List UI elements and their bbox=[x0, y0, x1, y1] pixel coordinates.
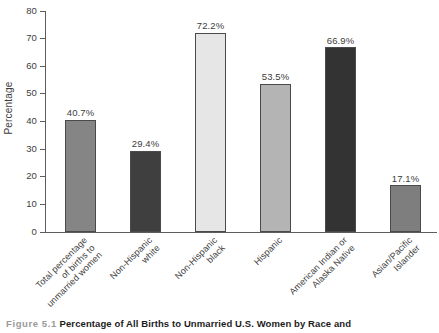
y-tick-label-10: 10 bbox=[3, 199, 37, 209]
bar-hispanic bbox=[260, 84, 291, 232]
figure-number: Figure 5.1 bbox=[6, 318, 57, 329]
y-tick-label-80: 80 bbox=[3, 6, 37, 16]
y-axis-title: Percentage bbox=[4, 66, 14, 150]
plot-area: 40.7% 29.4% 72.2% 53.5% 66.9% 17.1% bbox=[46, 11, 432, 232]
bar-asian-pacific-islander bbox=[390, 185, 421, 232]
bar-american-indian-alaska-native bbox=[325, 47, 356, 232]
bar-value-american-indian-alaska-native: 66.9% bbox=[309, 36, 372, 46]
x-axis-line bbox=[41, 232, 437, 233]
bar-value-asian-pacific-islander: 17.1% bbox=[374, 174, 437, 184]
y-axis-tick-labels: 80 70 60 50 40 30 20 10 0 bbox=[0, 0, 37, 328]
bar-value-hispanic: 53.5% bbox=[244, 72, 307, 82]
figure-caption-text: Percentage of All Births to Unmarried U.… bbox=[60, 318, 352, 329]
y-tick-label-0: 0 bbox=[3, 227, 37, 237]
bar-total-percentage bbox=[65, 120, 96, 232]
bar-value-non-hispanic-white: 29.4% bbox=[114, 139, 177, 149]
bar-non-hispanic-black bbox=[195, 33, 226, 232]
y-tick-label-20: 20 bbox=[3, 171, 37, 181]
bar-non-hispanic-white bbox=[130, 151, 161, 232]
bar-value-non-hispanic-black: 72.2% bbox=[179, 21, 242, 31]
figure-caption: Figure 5.1 Percentage of All Births to U… bbox=[6, 318, 439, 329]
y-tick-label-70: 70 bbox=[3, 33, 37, 43]
bar-value-total-percentage: 40.7% bbox=[49, 108, 112, 118]
